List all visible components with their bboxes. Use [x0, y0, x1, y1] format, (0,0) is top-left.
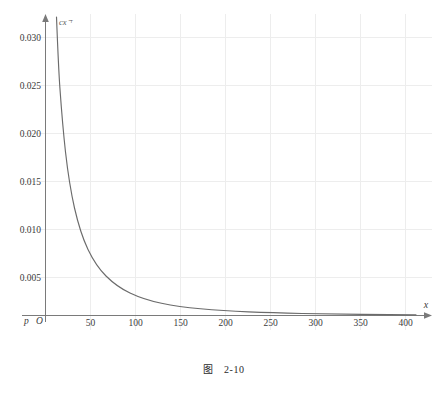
p-label: p	[23, 316, 29, 326]
origin-label: O	[36, 316, 43, 326]
curve-path	[57, 17, 417, 315]
grid-horizontal	[22, 38, 432, 278]
y-tick-label: 0.010	[20, 225, 42, 235]
y-axis	[42, 14, 49, 322]
x-tick-label: 350	[353, 318, 368, 328]
y-tick-label: 0.005	[20, 273, 42, 283]
caption-symbol: 图	[203, 364, 214, 375]
figure-caption: 图2-10	[0, 361, 447, 376]
curve-label: cx⁻ʳ	[59, 17, 74, 27]
y-tick-labels: 0.005 0.010 0.015 0.020 0.025 0.030	[20, 33, 42, 283]
x-tick-label: 300	[308, 318, 323, 328]
x-tick-label: 50	[86, 318, 96, 328]
x-tick-label: 150	[173, 318, 188, 328]
x-tick-label: 400	[398, 318, 413, 328]
caption-number: 2-10	[224, 364, 244, 375]
x-tick-labels: 50 100 150 200 250 300 350 400	[86, 318, 413, 328]
y-tick-label: 0.030	[20, 33, 42, 43]
x-tick-label: 100	[128, 318, 143, 328]
figure-container: cx⁻ʳ x p O 50 100 150 200 250 300 350 40…	[0, 0, 447, 393]
y-tick-label: 0.015	[20, 177, 42, 187]
x-tick-label: 200	[218, 318, 233, 328]
x-axis-label: x	[423, 299, 429, 310]
x-tick-label: 250	[263, 318, 278, 328]
y-tick-label: 0.020	[20, 129, 42, 139]
y-tick-label: 0.025	[20, 81, 42, 91]
grid-vertical	[91, 14, 406, 330]
power-law-chart: cx⁻ʳ x p O 50 100 150 200 250 300 350 40…	[0, 0, 447, 393]
